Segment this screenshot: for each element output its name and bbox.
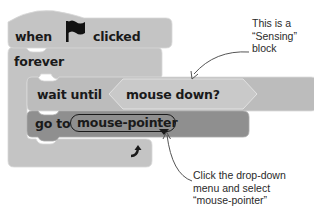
loop-arrow-icon	[129, 143, 143, 157]
when-label: when	[15, 29, 52, 44]
wait-until-block[interactable]: wait until mouse down?	[27, 77, 314, 111]
dropdown-triangle-icon	[159, 120, 169, 126]
go-to-block[interactable]: go to mouse-pointer	[27, 111, 249, 137]
forever-label: forever	[14, 54, 64, 69]
sensing-arrow	[194, 52, 249, 74]
sensing-note: This is a “Sensing” block	[252, 17, 297, 55]
dropdown-note-line-1: Click the drop-down	[193, 169, 286, 182]
target-dropdown[interactable]: mouse-pointer	[70, 114, 176, 132]
mouse-down-sensing-block[interactable]: mouse down?	[109, 79, 257, 109]
flag-icon	[66, 20, 86, 42]
clicked-label: clicked	[93, 29, 140, 44]
sensing-note-line-1: This is a	[252, 17, 297, 30]
dropdown-note: Click the drop-down menu and select “mou…	[193, 169, 286, 207]
sensing-note-line-2: “Sensing”	[252, 30, 297, 43]
wait-until-label: wait until	[37, 87, 102, 102]
when-flag-clicked-block[interactable]: when clicked	[8, 8, 172, 48]
mouse-down-label: mouse down?	[126, 87, 220, 102]
sensing-note-line-3: block	[252, 42, 297, 55]
dropdown-note-line-3: “mouse-pointer”	[193, 194, 286, 207]
go-to-label: go to	[35, 116, 70, 131]
dropdown-note-line-2: menu and select	[193, 182, 286, 195]
